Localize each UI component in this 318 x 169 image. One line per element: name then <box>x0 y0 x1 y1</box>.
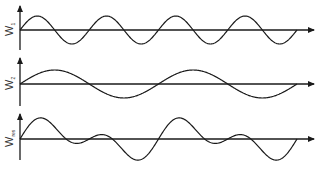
svg-text:Wres: Wres <box>3 129 16 147</box>
panel-w1: W1 <box>3 6 314 50</box>
panel-wres: Wres <box>3 114 314 160</box>
panel-w2: W2 <box>3 58 314 106</box>
svg-text:W2: W2 <box>3 77 16 90</box>
wave-superposition-diagram: W1 W2 Wres <box>0 0 318 169</box>
label-w2: W2 <box>3 77 16 90</box>
label-wres: Wres <box>3 129 16 147</box>
svg-text:W1: W1 <box>3 23 16 36</box>
label-w1: W1 <box>3 23 16 36</box>
